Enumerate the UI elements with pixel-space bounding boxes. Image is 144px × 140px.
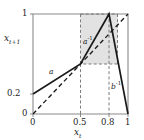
- x-tick-label-1: 1: [125, 118, 130, 127]
- a-inverse-exponent: -1: [87, 35, 92, 41]
- x-tick-label-0: 0: [30, 118, 35, 127]
- slope-a-label: a: [49, 68, 53, 76]
- b-inverse-label: b-1: [111, 81, 121, 90]
- x-tick-label-08: 0.8: [101, 118, 115, 127]
- x-axis-title-sub: t: [79, 132, 81, 139]
- x-tick-label-05: 0.5: [73, 118, 87, 127]
- b-inverse-exponent: -1: [116, 80, 121, 86]
- y-tick-label-0: 0: [22, 109, 27, 118]
- y-axis-title: xt+1: [4, 34, 20, 45]
- x-axis-title: xt: [74, 128, 82, 139]
- y-tick-label-1: 1: [22, 9, 27, 18]
- y-tick-label-02: 0.2: [7, 89, 21, 98]
- a-inverse-label: a-1: [83, 36, 93, 45]
- y-axis-title-sub: t+1: [9, 38, 20, 45]
- plot-canvas: [0, 0, 144, 140]
- figure-container: 1 0.2 0 0 0.5 0.8 1 xt+1 xt a a-1 b-1: [0, 0, 144, 140]
